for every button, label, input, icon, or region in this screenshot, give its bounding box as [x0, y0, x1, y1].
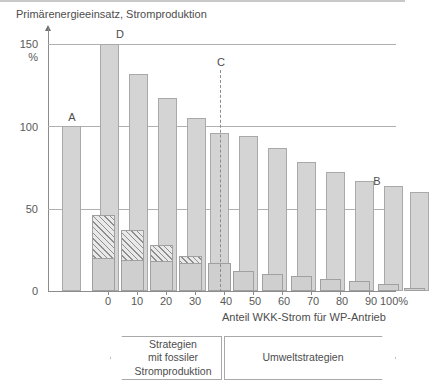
banner-fossil-strategies: Strategien mit fossiler Stromproduktion — [110, 336, 222, 380]
banner-umwelt-line-1: Umweltstrategien — [262, 351, 343, 364]
x-tick-0: 0 — [93, 295, 123, 307]
y-tick-150: 150 — [4, 38, 38, 50]
bar-30-base — [179, 263, 202, 291]
bar-80-total — [355, 181, 374, 291]
bar-A — [62, 126, 81, 291]
bar-40-base — [233, 271, 254, 291]
marker-label-D: D — [110, 28, 130, 40]
bar-80-base — [349, 281, 370, 291]
bar-50-base — [262, 274, 283, 291]
bar-B-total — [410, 192, 429, 291]
top-rule — [0, 0, 405, 2]
x-tick-10: 10 — [122, 295, 152, 307]
x-tick-80: 80 — [327, 295, 357, 307]
bar-70-total — [326, 172, 345, 291]
x-axis-label: Anteil WKK-Strom für WP-Antrieb — [222, 311, 386, 323]
marker-label-B: B — [367, 175, 387, 187]
bar-0-base — [92, 258, 115, 291]
x-tick-50: 50 — [240, 295, 270, 307]
bar-60-base — [291, 276, 312, 291]
banner-fossil-text: Strategien mit fossiler Stromproduktion — [134, 338, 211, 377]
x-tick-60: 60 — [269, 295, 299, 307]
marker-label-C: C — [211, 56, 231, 68]
marker-line-C — [220, 70, 221, 292]
marker-label-A: A — [62, 111, 82, 123]
y-tick-0: 0 — [4, 285, 38, 297]
plot-area — [48, 44, 396, 291]
bar-20-base — [150, 261, 173, 291]
bar-90-total — [384, 186, 403, 291]
x-tick-100: 100% — [380, 295, 416, 307]
bar-10-base — [121, 260, 144, 291]
bar-90-base — [378, 284, 399, 291]
x-axis — [48, 291, 396, 292]
x-tick-20: 20 — [151, 295, 181, 307]
bar-60-total — [297, 162, 316, 291]
bar-100-base — [404, 288, 425, 291]
y-tick-100: 100 — [4, 121, 38, 133]
y-tick-50: 50 — [4, 203, 38, 215]
banner-fossil-line-1: Strategien — [134, 338, 211, 351]
banner-fossil-line-3: Stromproduktion — [134, 365, 211, 378]
bar-40-total — [239, 136, 258, 291]
x-tick-70: 70 — [298, 295, 328, 307]
bar-50-total — [268, 148, 287, 291]
y-axis-unit: % — [4, 51, 38, 63]
x-tick-30: 30 — [180, 295, 210, 307]
x-tick-40: 40 — [211, 295, 241, 307]
banner-fossil-line-2: mit fossiler — [134, 351, 211, 364]
banner-environmental-strategies: Umweltstrategien — [224, 336, 396, 380]
chart-title: Primärenergieeinsatz, Stromproduktion — [16, 8, 207, 20]
bar-70-base — [320, 279, 341, 291]
